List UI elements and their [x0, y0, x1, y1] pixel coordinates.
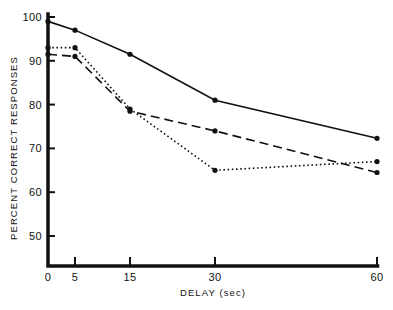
line-chart: 506070809010005153060 PERCENT CORRECT RE…	[0, 0, 393, 310]
data-point-dotted	[72, 45, 77, 50]
x-axis-tick-label: 5	[72, 271, 79, 283]
x-axis-tick-label: 60	[370, 271, 383, 283]
data-point-solid	[374, 136, 379, 141]
data-point-dotted	[374, 159, 379, 164]
data-point-dotted	[212, 168, 217, 173]
data-point-solid	[72, 28, 77, 33]
x-axis-tick-label: 15	[123, 271, 136, 283]
y-axis-tick-label: 80	[29, 99, 42, 111]
y-axis-title: PERCENT CORRECT RESPONSES	[8, 56, 19, 240]
data-point-dashed	[72, 54, 77, 59]
x-axis-tick-label: 30	[208, 271, 221, 283]
chart-background	[0, 0, 393, 310]
data-point-dashed	[127, 109, 132, 114]
y-axis-tick-label: 50	[29, 230, 42, 242]
x-axis-title: DELAY (sec)	[180, 287, 246, 298]
data-point-dashed	[212, 128, 217, 133]
y-axis-tick-label: 100	[22, 11, 42, 23]
y-axis-tick-label: 90	[29, 55, 42, 67]
chart-figure: 506070809010005153060 PERCENT CORRECT RE…	[0, 0, 393, 310]
y-axis-tick-label: 60	[29, 186, 42, 198]
y-axis-tick-label: 70	[29, 142, 42, 154]
data-point-solid	[127, 52, 132, 57]
data-point-solid	[212, 98, 217, 103]
x-axis-tick-label: 0	[45, 271, 52, 283]
data-point-dashed	[374, 170, 379, 175]
